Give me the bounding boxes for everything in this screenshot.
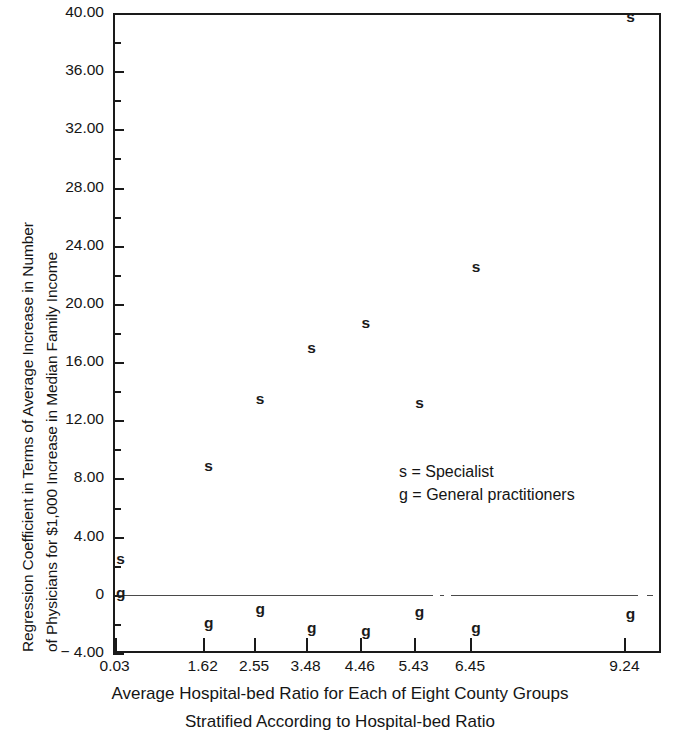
data-point-specialist: s <box>116 551 125 567</box>
x-tick-label: 0.03 <box>100 657 130 675</box>
y-tick-major <box>113 478 124 480</box>
y-tick-label: 20.00 <box>18 294 104 312</box>
data-point-general-practitioner: g <box>204 616 213 632</box>
data-point-specialist: s <box>472 259 481 275</box>
y-tick-minor <box>113 624 121 626</box>
zero-line-segment <box>647 595 653 596</box>
y-tick-major <box>113 537 124 539</box>
y-tick-label: 32.00 <box>18 119 104 137</box>
data-point-general-practitioner: g <box>361 623 370 639</box>
y-tick-label: 24.00 <box>18 236 104 254</box>
data-point-general-practitioner: g <box>255 601 264 617</box>
y-tick-major <box>113 129 124 131</box>
y-tick-label: 36.00 <box>18 61 104 79</box>
zero-line-segment <box>117 595 433 596</box>
y-tick-label: 4.00 <box>18 527 104 545</box>
x-tick <box>624 638 626 653</box>
y-tick-minor <box>113 100 121 102</box>
data-point-specialist: s <box>626 9 635 25</box>
y-tick-major <box>113 188 124 190</box>
data-point-specialist: s <box>204 458 213 474</box>
x-tick-label: 5.43 <box>398 657 428 675</box>
data-point-specialist: s <box>362 316 371 332</box>
data-point-general-practitioner: g <box>116 585 125 601</box>
y-tick-label: 0 <box>18 585 104 603</box>
data-point-general-practitioner: g <box>471 621 480 637</box>
y-tick-major <box>113 362 124 364</box>
legend-item-general-practitioners: g = General practitioners <box>399 484 575 507</box>
x-tick <box>254 638 256 653</box>
y-tick-minor <box>113 275 121 277</box>
x-tick <box>115 638 117 653</box>
y-tick-label: − 4.00 <box>18 643 104 661</box>
y-tick-major <box>113 653 124 655</box>
x-tick <box>306 638 308 653</box>
data-point-specialist: s <box>307 340 316 356</box>
y-tick-major <box>113 304 124 306</box>
y-tick-major <box>113 420 124 422</box>
y-tick-minor <box>113 449 121 451</box>
y-tick-minor <box>113 158 121 160</box>
y-tick-label: 12.00 <box>18 410 104 428</box>
data-point-general-practitioner: g <box>415 604 424 620</box>
y-tick-label: 40.00 <box>18 3 104 21</box>
y-tick-label: 16.00 <box>18 352 104 370</box>
x-tick-label: 1.62 <box>188 657 218 675</box>
x-axis-title-line2: Stratified According to Hospital-bed Rat… <box>0 712 680 732</box>
plot-area <box>113 13 661 653</box>
y-tick-major <box>113 246 124 248</box>
y-tick-minor <box>113 508 121 510</box>
y-tick-major <box>113 71 124 73</box>
x-tick-label: 9.24 <box>609 657 639 675</box>
y-tick-label: 8.00 <box>18 468 104 486</box>
x-tick <box>360 638 362 653</box>
x-tick-label: 3.48 <box>291 657 321 675</box>
x-tick <box>203 638 205 653</box>
x-tick <box>470 638 472 653</box>
y-tick-label: 28.00 <box>18 178 104 196</box>
y-axis-title: Regression Coefficient in Terms of Avera… <box>0 0 62 660</box>
x-tick-label: 4.46 <box>345 657 375 675</box>
y-tick-minor <box>113 217 121 219</box>
data-point-general-practitioner: g <box>307 621 316 637</box>
x-tick-label: 2.55 <box>239 657 269 675</box>
zero-line-segment <box>440 595 444 596</box>
y-tick-minor <box>113 42 121 44</box>
y-tick-major <box>113 13 124 15</box>
data-point-specialist: s <box>256 391 265 407</box>
zero-line-segment <box>451 595 638 596</box>
y-tick-minor <box>113 333 121 335</box>
x-tick <box>414 638 416 653</box>
y-tick-minor <box>113 391 121 393</box>
data-point-specialist: s <box>415 396 424 412</box>
x-tick-label: 6.45 <box>455 657 485 675</box>
legend-item-specialist: s = Specialist <box>399 461 575 484</box>
data-point-general-practitioner: g <box>626 606 635 622</box>
legend: s = Specialist g = General practitioners <box>399 461 575 506</box>
x-axis-title-line1: Average Hospital-bed Ratio for Each of E… <box>0 684 680 704</box>
chart-page: Regression Coefficient in Terms of Avera… <box>0 0 680 741</box>
